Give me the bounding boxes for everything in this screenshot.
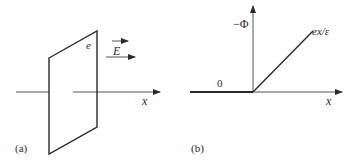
y-axis-label: −Φ	[233, 18, 249, 30]
zero-label: 0	[217, 78, 223, 89]
field-label: E	[113, 45, 120, 57]
caption-b: (b)	[191, 143, 204, 154]
potential-linear-segment	[253, 31, 313, 92]
caption-a: (a)	[15, 143, 27, 154]
figure	[0, 0, 354, 162]
x-axis-label-b: x	[326, 95, 331, 107]
x-axis-label-a: x	[142, 95, 147, 107]
line-label: ex/ε	[312, 26, 329, 37]
charge-label: e	[86, 40, 91, 51]
panel-b	[190, 6, 342, 92]
